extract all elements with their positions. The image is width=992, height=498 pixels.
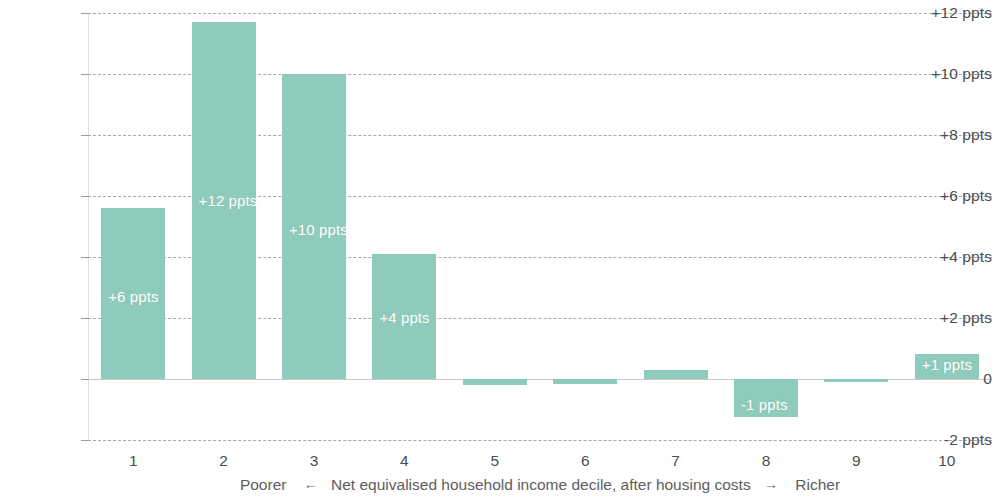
y-axis-tick xyxy=(81,440,88,441)
x-axis-tick-label: 3 xyxy=(310,452,319,470)
x-axis-tick-label: 7 xyxy=(671,452,680,470)
y-axis-tick xyxy=(81,135,88,136)
y-axis-tick xyxy=(81,257,88,258)
bar[interactable] xyxy=(644,370,708,379)
x-axis-tick-label: 10 xyxy=(938,452,955,470)
bar[interactable] xyxy=(463,379,527,385)
bar[interactable] xyxy=(824,379,888,382)
bar-value-label: +12 ppts xyxy=(199,192,258,209)
y-axis-tick xyxy=(81,13,88,14)
plot-area: +6 ppts+12 ppts+10 ppts+4 ppts-1 ppts+1 … xyxy=(88,0,992,441)
bar-value-label: +4 ppts xyxy=(379,308,429,325)
x-axis-tick-label: 4 xyxy=(400,452,409,470)
x-axis-tick-label: 6 xyxy=(581,452,590,470)
bar-value-label: +6 ppts xyxy=(108,288,158,305)
x-axis-tick-label: 9 xyxy=(852,452,861,470)
x-axis-title: Poorer ← Net equivalised household incom… xyxy=(88,476,992,494)
bar[interactable] xyxy=(553,379,617,384)
bar-value-label: +1 ppts xyxy=(922,356,972,373)
x-axis-title-left: Poorer xyxy=(240,476,291,494)
left-arrow-icon: ← xyxy=(295,476,327,492)
x-axis-title-right: Richer xyxy=(791,476,840,494)
bar-chart: +12 ppts+10 ppts+8 ppts+6 ppts+4 ppts+2 … xyxy=(0,0,992,498)
right-arrow-icon: → xyxy=(755,476,787,492)
x-axis-tick-label: 8 xyxy=(762,452,771,470)
x-axis-title-middle: Net equivalised household income decile,… xyxy=(331,476,751,494)
y-axis-tick xyxy=(81,318,88,319)
x-axis-tick-label: 2 xyxy=(219,452,228,470)
y-axis-tick xyxy=(81,74,88,75)
bar-value-label: +10 ppts xyxy=(289,221,348,238)
y-axis-tick xyxy=(81,379,88,380)
x-axis-tick-label: 5 xyxy=(490,452,499,470)
bar-value-label: -1 ppts xyxy=(741,396,788,413)
y-axis-tick xyxy=(81,196,88,197)
x-axis-tick-label: 1 xyxy=(129,452,138,470)
